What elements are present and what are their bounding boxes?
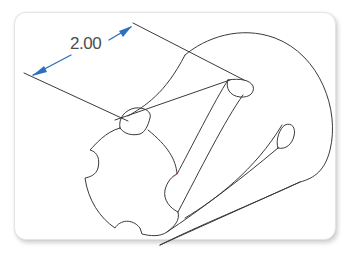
slot1-left-edge: [177, 80, 228, 174]
figure-stage: 2.00: [0, 0, 359, 253]
cylinder-front-face: [85, 128, 178, 236]
extension-line-right: [133, 23, 244, 80]
extension-line-left: [24, 73, 128, 121]
slot1-end-cap: [227, 79, 253, 97]
cylinder-top-silhouette: [128, 55, 185, 116]
cylinder-top-edge: [115, 80, 230, 120]
cylinder-back-outline: [160, 33, 333, 245]
dimension-label: 2.00: [70, 35, 101, 52]
cylinder-drawing: [0, 0, 359, 253]
